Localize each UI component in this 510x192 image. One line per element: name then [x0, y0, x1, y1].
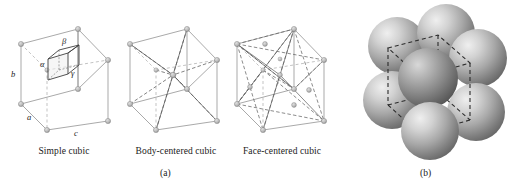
sphere-front-bottom [401, 102, 459, 160]
angle-label-beta: β [61, 36, 67, 46]
edge-label-b: b [11, 69, 15, 79]
panel-label-b: (b) [420, 168, 431, 178]
crystal-lattice-figure: β α γ b a c [0, 0, 510, 192]
edge-label-c: c [74, 128, 78, 138]
panel-label-a: (a) [160, 168, 171, 178]
bcc-body-center-point [170, 72, 176, 78]
caption-face-centered-cubic: Face-centered cubic [218, 146, 346, 156]
angle-label-alpha: α [40, 59, 45, 69]
sphere-center-front [398, 48, 458, 108]
caption-simple-cubic: Simple cubic [0, 146, 128, 156]
edge-label-a: a [27, 112, 31, 122]
